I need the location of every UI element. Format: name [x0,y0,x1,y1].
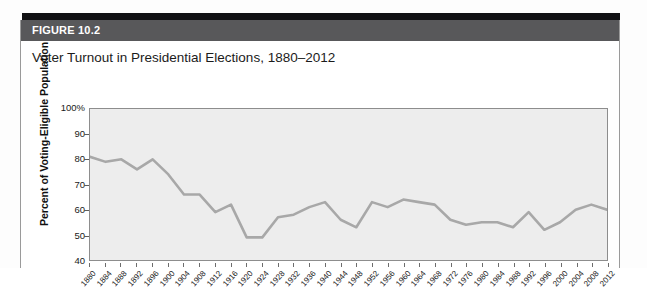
x-tick-mark [309,263,310,267]
turnout-line-chart [90,109,607,260]
y-tick-mark [84,236,89,237]
y-tick-label: 40 [55,255,85,266]
x-tick-mark [498,263,499,267]
x-tick-mark [105,263,106,267]
x-tick-mark [246,263,247,267]
figure-number-label: FIGURE 10.2 [32,24,100,36]
x-tick-mark [278,263,279,267]
figure-number-banner: FIGURE 10.2 [21,20,619,41]
x-tick-mark [293,263,294,267]
x-tick-mark [120,263,121,267]
x-tick-mark [482,263,483,267]
x-tick-mark [215,263,216,267]
x-tick-mark [404,263,405,267]
x-axis-tick-labels: 1880188418881892189619001904190819121916… [89,263,608,291]
x-tick-mark [529,263,530,267]
x-tick-mark [325,263,326,267]
x-tick-mark [231,263,232,267]
x-tick-mark [183,263,184,267]
y-tick-mark [84,185,89,186]
x-tick-mark [89,263,90,267]
x-tick-mark [466,263,467,267]
x-tick-mark [341,263,342,267]
x-tick-mark [168,263,169,267]
x-tick-mark [152,263,153,267]
turnout-line-path [90,157,607,238]
x-tick-mark [388,263,389,267]
y-tick-label: 70 [55,179,85,190]
x-tick-mark [136,263,137,267]
x-tick-mark [561,263,562,267]
x-tick-mark [592,263,593,267]
y-axis-tick-labels: 405060708090100% [51,75,85,268]
y-tick-mark [84,159,89,160]
x-tick-mark [419,263,420,267]
plot-area [89,108,608,261]
x-tick-mark [372,263,373,267]
y-tick-label: 90 [55,128,85,139]
y-tick-mark [84,210,89,211]
x-tick-mark [356,263,357,267]
x-tick-mark [514,263,515,267]
chart-container: Percent of Voting-Eligible Population 40… [21,75,621,268]
y-tick-label: 100% [55,102,85,113]
x-tick-mark [435,263,436,267]
x-tick-mark [608,263,609,267]
y-tick-label: 60 [55,204,85,215]
x-tick-mark [262,263,263,267]
y-axis-title: Percent of Voting-Eligible Population [38,76,50,226]
y-tick-mark [84,134,89,135]
y-tick-label: 80 [55,153,85,164]
y-tick-label: 50 [55,230,85,241]
x-tick-mark [199,263,200,267]
x-tick-mark [545,263,546,267]
x-tick-mark [577,263,578,267]
x-tick-mark [451,263,452,267]
figure-card: FIGURE 10.2 Voter Turnout in Presidentia… [20,20,620,268]
figure-title: Voter Turnout in Presidential Elections,… [32,50,335,65]
